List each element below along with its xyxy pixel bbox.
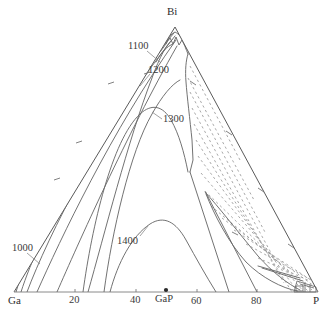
corner-label-ga: Ga bbox=[8, 295, 21, 306]
curve-ga-4 bbox=[37, 40, 176, 292]
isotherm-label-1200: 1200 bbox=[148, 65, 169, 76]
axis-tick-label-80: 80 bbox=[251, 296, 262, 307]
curve-1400 bbox=[110, 220, 216, 292]
diagram-canvas bbox=[0, 0, 333, 323]
isotherm-label-1100: 1100 bbox=[128, 41, 149, 52]
boundary-straight-1 bbox=[206, 193, 257, 292]
corner-label-p: P bbox=[313, 295, 319, 306]
curve-1000 bbox=[57, 46, 177, 292]
ternary-phase-diagram: Ga Bi P 20 40 GaP 60 80 1000 1100 1200 1… bbox=[0, 0, 333, 323]
gap-point-marker bbox=[164, 288, 168, 292]
tie-lines-dashed bbox=[188, 52, 314, 292]
isotherm-label-1400: 1400 bbox=[117, 236, 138, 247]
axis-tick-label-40: 40 bbox=[130, 295, 141, 306]
axis-tick-label-gap: GaP bbox=[155, 294, 173, 305]
corner-label-bi: Bi bbox=[167, 6, 177, 17]
p-region-boundaries bbox=[186, 54, 303, 292]
axis-tick-label-20: 20 bbox=[69, 295, 80, 306]
isotherm-label-1000: 1000 bbox=[12, 243, 33, 254]
curve-direction-ticks bbox=[54, 72, 294, 248]
boundary-steep bbox=[186, 54, 193, 172]
axis-tick-label-60: 60 bbox=[191, 296, 202, 307]
isotherm-label-1300: 1300 bbox=[163, 114, 184, 125]
